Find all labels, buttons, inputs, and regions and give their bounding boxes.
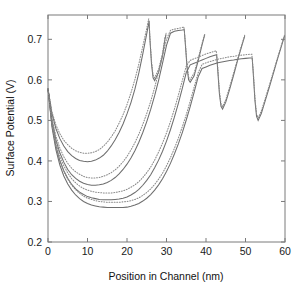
y-tick-label: 0.2 (27, 236, 42, 248)
x-axis-title: Position in Channel (nm) (109, 270, 224, 282)
y-axis-title: Surface Potential (V) (4, 80, 16, 177)
y-tick-label: 0.5 (27, 114, 42, 126)
surface-potential-plot: 01020304050600.20.30.40.50.60.7 Position… (0, 0, 305, 289)
x-tick-label: 50 (240, 245, 252, 257)
y-tick-label: 0.3 (27, 195, 42, 207)
chart-figure: 01020304050600.20.30.40.50.60.7 Position… (0, 0, 305, 289)
x-tick-label: 10 (82, 245, 94, 257)
y-tick-label: 0.7 (27, 33, 42, 45)
x-tick-label: 20 (121, 245, 133, 257)
x-tick-label: 60 (279, 245, 291, 257)
y-tick-label: 0.6 (27, 74, 42, 86)
x-tick-label: 40 (200, 245, 212, 257)
y-tick-label: 0.4 (27, 155, 42, 167)
x-tick-label: 0 (45, 245, 51, 257)
x-tick-label: 30 (161, 245, 173, 257)
